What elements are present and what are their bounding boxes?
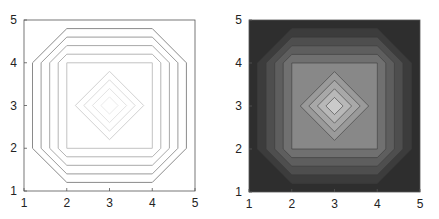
x-tick-label: 5: [417, 197, 424, 211]
x-tick-label: 5: [192, 196, 199, 210]
diamond-contour: [84, 80, 135, 131]
contour-lines-plot: 1234512345: [0, 0, 220, 219]
plot-area: 1234512345: [219, 0, 439, 219]
y-tick-label: 2: [10, 141, 17, 155]
y-tick-label: 3: [10, 99, 17, 113]
square-contour: [67, 63, 153, 149]
x-tick-label: 4: [149, 196, 156, 210]
y-tick-label: 5: [235, 13, 242, 27]
x-tick-label: 1: [246, 197, 253, 211]
y-tick-label: 4: [235, 56, 242, 70]
x-tick-label: 3: [331, 197, 338, 211]
x-tick-label: 2: [288, 197, 295, 211]
octagon-contour: [41, 37, 178, 174]
x-tick-label: 1: [21, 196, 28, 210]
octagon-contour: [50, 46, 170, 166]
x-tick-label: 2: [63, 196, 70, 210]
x-tick-label: 4: [374, 197, 381, 211]
y-tick-label: 4: [10, 56, 17, 70]
diamond-contour: [92, 88, 126, 122]
filled-contour-plot: 1234512345: [219, 0, 439, 219]
plot-area: 1234512345: [0, 0, 220, 219]
y-tick-label: 3: [235, 99, 242, 113]
y-tick-label: 5: [10, 13, 17, 27]
x-tick-label: 3: [106, 196, 113, 210]
diamond-contour: [101, 97, 118, 114]
octagon-contour: [33, 29, 187, 183]
octagon-contour: [58, 54, 161, 157]
diamond-contour: [75, 71, 143, 139]
y-tick-label: 1: [235, 185, 242, 199]
y-tick-label: 1: [10, 184, 17, 198]
y-tick-label: 2: [235, 142, 242, 156]
